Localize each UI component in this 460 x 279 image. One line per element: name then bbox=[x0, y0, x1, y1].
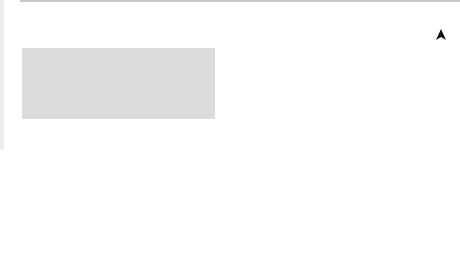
north-arrow-icon bbox=[436, 29, 446, 40]
tabernacle-diagram bbox=[0, 0, 460, 279]
